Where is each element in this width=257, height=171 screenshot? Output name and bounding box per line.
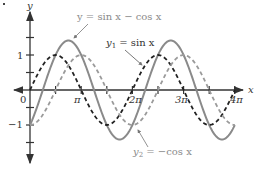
x-tick-2pi-label: 2π: [128, 94, 142, 105]
x-tick-pi-label: π: [73, 94, 81, 105]
sum-pointer: [74, 24, 88, 38]
origin-label: 0: [20, 94, 26, 105]
x-tick-4pi-label: 4π: [229, 94, 243, 105]
corner-mark: [3, 3, 5, 5]
y2-curve-label: y2 = −cos x: [132, 146, 192, 159]
y1-curve-label: y1 = sin x: [105, 37, 155, 50]
y1-pointer: [125, 50, 142, 65]
y-tick-neg1-label: −1: [8, 119, 23, 130]
x-axis-label: x: [248, 84, 254, 95]
y2-pointer: [138, 130, 148, 147]
x-tick-3pi-label: 3π: [175, 94, 188, 105]
y-axis-label: y: [26, 0, 33, 11]
sum-curve-label: y = sin x − cos x: [76, 11, 162, 22]
chart: y x 0 1 −1 π 2π 3π 4π y = sin x − cos x …: [0, 0, 257, 171]
y-tick-1-label: 1: [17, 50, 23, 61]
y2-rest: = −cos x: [143, 146, 192, 157]
y1-rest: = sin x: [116, 37, 155, 48]
